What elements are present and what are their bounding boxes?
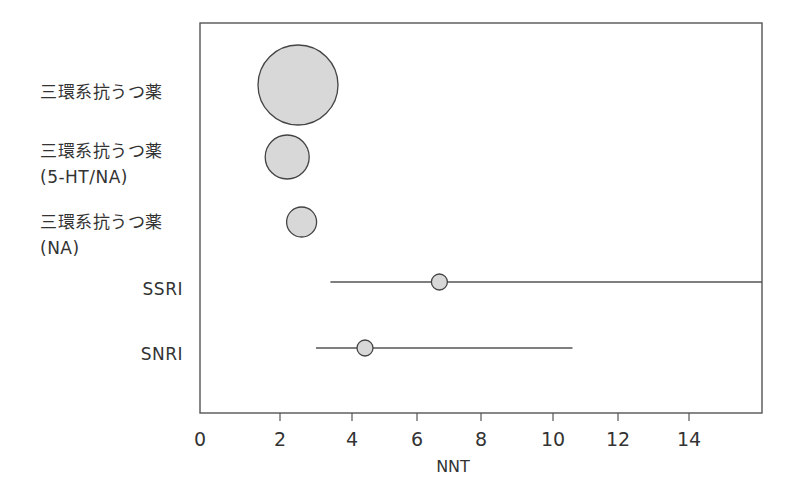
data-point-circle xyxy=(258,45,338,125)
x-tick-label-8: 8 xyxy=(475,428,487,450)
x-tick-label-4: 4 xyxy=(346,428,358,450)
x-tick-label-0: 0 xyxy=(194,428,206,450)
plot-area xyxy=(0,0,795,492)
x-tick-label-6: 6 xyxy=(411,428,423,450)
x-tick-label-2: 2 xyxy=(274,428,286,450)
data-point-circle xyxy=(357,340,373,356)
confidence-intervals xyxy=(316,282,762,348)
x-tick-label-12: 12 xyxy=(606,428,630,450)
chart: 三環系抗うつ薬 三環系抗うつ薬 (5-HT/NA) 三環系抗うつ薬 (NA) S… xyxy=(0,0,795,492)
data-point-circle xyxy=(287,207,317,237)
x-axis-title: NNT xyxy=(436,457,470,477)
x-tick-label-10: 10 xyxy=(541,428,565,450)
data-point-circle xyxy=(265,135,309,179)
data-point-circle xyxy=(431,274,447,290)
data-markers xyxy=(258,45,447,356)
x-tick-label-14: 14 xyxy=(677,428,701,450)
x-axis-ticks xyxy=(280,413,689,421)
